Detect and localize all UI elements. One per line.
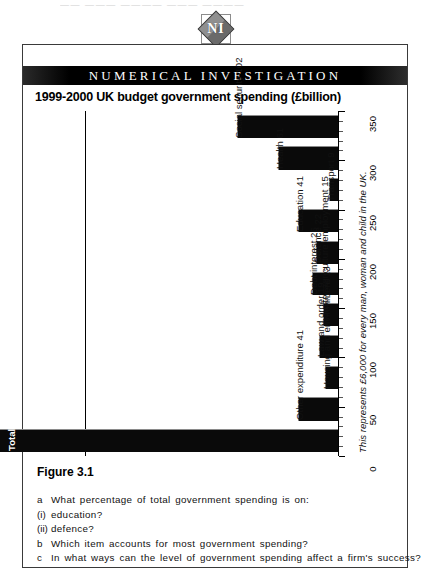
question-text: education? [51, 508, 102, 523]
value-axis-minor-tick [339, 417, 343, 418]
value-axis-minor-tick [339, 249, 343, 250]
value-axis-tick [339, 160, 345, 161]
value-axis-tick [339, 407, 345, 408]
value-axis-minor-tick [339, 318, 343, 319]
questions-list: aWhat percentage of total government spe… [37, 493, 395, 566]
value-axis-minor-tick [339, 279, 343, 280]
question-item: (i)education? [37, 508, 395, 523]
section-banner: NUMERICAL INVESTIGATION [23, 66, 407, 85]
value-axis-tick [339, 308, 345, 309]
bar-label: Education 41 [295, 176, 305, 232]
figure-label: Figure 3.1 [37, 465, 94, 479]
value-axis-minor-tick [339, 367, 343, 368]
value-axis-minor-tick [339, 446, 343, 447]
value-axis-tick [339, 111, 345, 112]
question-marker: (i) [37, 508, 51, 523]
chart-title: 1999-2000 UK budget government spending … [35, 90, 341, 104]
value-axis-tick-label: 150 [368, 308, 378, 334]
value-axis-minor-tick [339, 121, 343, 122]
value-axis-minor-tick [339, 269, 343, 270]
question-item: cIn what ways can the level of governmen… [37, 551, 395, 566]
value-axis-tick-label: 100 [368, 357, 378, 383]
bar-chart: 050100150200250300350Social security 102… [85, 111, 385, 463]
category-axis-line [85, 111, 86, 456]
value-axis-tick [339, 357, 345, 358]
value-axis-minor-tick [339, 229, 343, 230]
bar-label: Social security 102 [234, 57, 244, 138]
question-marker: b [37, 537, 51, 552]
bar-label: Health 61 [275, 128, 285, 169]
question-text: What percentage of total government spen… [51, 493, 309, 508]
numerical-investigation-panel: NUMERICAL INVESTIGATION 1999-2000 UK bud… [22, 44, 408, 568]
value-axis-minor-tick [339, 219, 343, 220]
value-axis-minor-tick [339, 150, 343, 151]
bar-social-security [237, 115, 338, 138]
bar-label: Housing and environment 13 [322, 266, 332, 389]
value-axis-minor-tick [339, 397, 343, 398]
value-axis-minor-tick [339, 190, 343, 191]
question-text: In what ways can the level of government… [51, 551, 421, 566]
value-axis-tick-label: 350 [368, 111, 378, 137]
chart-annotation: This represents £6,000 for every man, wo… [358, 171, 368, 453]
value-axis-minor-tick [339, 426, 343, 427]
value-axis-minor-tick [339, 338, 343, 339]
value-axis-tick [339, 259, 345, 260]
value-axis-tick [339, 456, 345, 457]
section-banner-title: NUMERICAL INVESTIGATION [89, 68, 342, 84]
value-axis-tick-label: 0 [368, 456, 378, 482]
question-item: (ii)defence? [37, 522, 395, 537]
value-axis-minor-tick [339, 180, 343, 181]
question-text: defence? [51, 522, 94, 537]
question-marker: a [37, 493, 51, 508]
value-axis-minor-tick [339, 377, 343, 378]
value-axis-minor-tick [339, 131, 343, 132]
value-axis-minor-tick [339, 288, 343, 289]
question-item: aWhat percentage of total government spe… [37, 493, 395, 508]
bar-total [0, 429, 338, 452]
value-axis-minor-tick [339, 348, 343, 349]
question-item: bWhich item accounts for most government… [37, 537, 395, 552]
value-axis-tick [339, 210, 345, 211]
value-axis-minor-tick [339, 387, 343, 388]
value-axis-minor-tick [339, 239, 343, 240]
value-axis-tick-label: 250 [368, 210, 378, 236]
logo-letter-n: N [207, 21, 218, 37]
value-axis-minor-tick [339, 436, 343, 437]
question-marker: (ii) [37, 522, 51, 537]
value-axis-minor-tick [339, 141, 343, 142]
value-axis-tick-label: 200 [368, 259, 378, 285]
value-axis-tick-label: 50 [368, 407, 378, 433]
value-axis-minor-tick [339, 200, 343, 201]
question-marker: c [37, 551, 51, 566]
bar-label: Other expenditure 41 [295, 330, 305, 420]
value-axis-minor-tick [339, 328, 343, 329]
page-top-bleed-text: —— ——— ———— ——— ———— [60, 0, 370, 9]
logo-letters: NI [197, 10, 235, 48]
value-axis-tick-label: 300 [368, 160, 378, 186]
value-axis-minor-tick [339, 298, 343, 299]
ni-logo: NI [197, 10, 235, 48]
value-axis-minor-tick [339, 170, 343, 171]
question-text: Which item accounts for most government … [51, 537, 308, 552]
bar-label: Total 349 [7, 411, 17, 452]
logo-letter-i: I [218, 21, 224, 37]
